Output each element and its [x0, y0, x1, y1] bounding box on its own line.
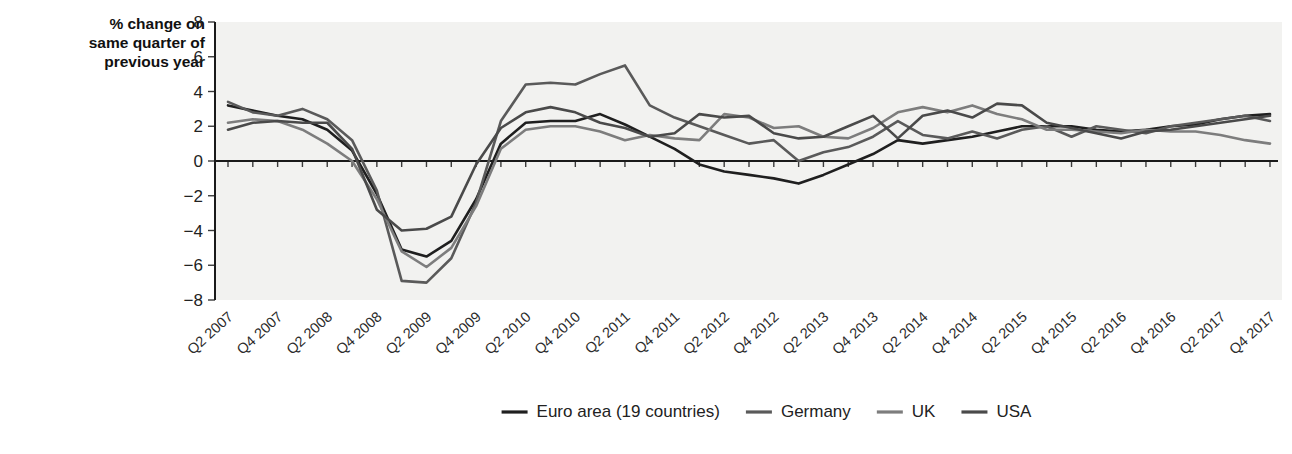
chart-legend: Euro area (19 countries)GermanyUKUSA	[502, 402, 1032, 421]
x-tick-label: Q4 2013	[829, 308, 881, 357]
x-tick-label: Q2 2014	[879, 308, 931, 357]
legend-label-germany: Germany	[781, 402, 851, 421]
y-tick-label: −6	[184, 256, 203, 275]
x-tick-label: Q4 2009	[432, 308, 484, 357]
x-tick-label: Q4 2015	[1027, 308, 1079, 357]
x-tick-label: Q4 2008	[333, 308, 385, 357]
y-tick-label: 4	[194, 83, 203, 102]
x-tick-label: Q2 2008	[283, 308, 335, 357]
legend-label-uk: UK	[912, 402, 936, 421]
x-tick-label: Q2 2012	[680, 308, 732, 357]
chart-canvas: % change onsame quarter ofprevious year …	[0, 0, 1292, 454]
x-tick-label: Q2 2007	[184, 308, 236, 357]
y-tick-label: 6	[194, 48, 203, 67]
x-tick-label: Q4 2014	[928, 308, 980, 357]
x-tick-label: Q2 2010	[482, 308, 534, 357]
x-tick-label: Q4 2016	[1127, 308, 1179, 357]
x-tick-label: Q4 2017	[1226, 308, 1278, 357]
y-tick-label: 8	[194, 13, 203, 32]
x-tick-label: Q2 2015	[978, 308, 1030, 357]
x-tick-label: Q4 2012	[730, 308, 782, 357]
x-tick-label: Q2 2009	[382, 308, 434, 357]
y-axis-title-line: % change on	[109, 15, 205, 32]
y-tick-label: 2	[194, 117, 203, 136]
x-tick-label: Q4 2007	[234, 308, 286, 357]
y-tick-label: 0	[194, 152, 203, 171]
x-tick-label: Q2 2017	[1176, 308, 1228, 357]
x-tick-label: Q2 2013	[779, 308, 831, 357]
y-tick-label: −2	[184, 187, 203, 206]
y-axis-title: % change onsame quarter ofprevious year	[89, 15, 206, 70]
x-tick-label: Q2 2011	[582, 308, 633, 356]
y-axis-title-line: previous year	[104, 53, 205, 70]
x-tick-label: Q4 2011	[631, 308, 682, 356]
legend-label-usa: USA	[996, 402, 1032, 421]
x-tick-label: Q2 2016	[1077, 308, 1129, 357]
y-tick-label: −8	[184, 291, 203, 310]
x-axis-labels: Q2 2007Q4 2007Q2 2008Q4 2008Q2 2009Q4 20…	[184, 308, 1278, 357]
y-axis-title-line: same quarter of	[89, 34, 206, 51]
x-tick-label: Q4 2010	[531, 308, 583, 357]
quarterly-gdp-growth-chart: % change onsame quarter ofprevious year …	[0, 0, 1292, 454]
legend-label-euro-area-19-countries: Euro area (19 countries)	[537, 402, 720, 421]
y-tick-label: −4	[184, 222, 203, 241]
